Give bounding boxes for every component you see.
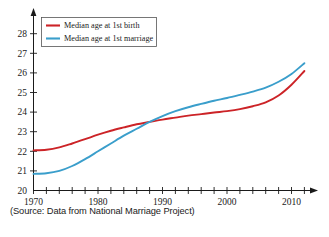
series-group xyxy=(34,63,305,174)
x-tick-label: 2010 xyxy=(282,197,301,207)
legend-label-median-age-first-marriage: Median age at 1st marriage xyxy=(64,34,153,43)
line-chart: 28 27 26 25 24 23 22 21 20 xyxy=(0,0,329,237)
chart-figure: 28 27 26 25 24 23 22 21 20 xyxy=(0,0,329,237)
y-tick-labels: 28 27 26 25 24 23 22 21 20 xyxy=(18,29,28,196)
source-note: (Source: Data from National Marriage Pro… xyxy=(10,206,195,216)
y-tick-label: 26 xyxy=(18,68,28,78)
y-tick-label: 24 xyxy=(18,107,28,117)
y-tick-label: 20 xyxy=(18,186,28,196)
y-tick-label: 21 xyxy=(18,166,28,176)
y-tick-label: 25 xyxy=(18,88,28,98)
y-tick-label: 22 xyxy=(18,147,28,157)
y-tick-label: 23 xyxy=(18,127,28,137)
y-tick-label: 28 xyxy=(18,29,28,39)
y-tick-label: 27 xyxy=(18,49,28,59)
legend-label-median-age-first-birth: Median age at 1st birth xyxy=(64,21,140,30)
series-line-median-age-first-birth xyxy=(34,71,305,150)
x-tick-label: 2000 xyxy=(218,197,237,207)
x-axis-arrowhead xyxy=(310,188,318,194)
y-axis-arrowhead xyxy=(31,8,37,16)
legend: Median age at 1st birth Median age at 1s… xyxy=(42,18,157,47)
